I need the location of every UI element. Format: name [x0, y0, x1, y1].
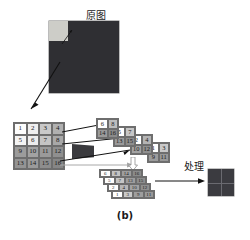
strip-cell-value: 12 — [142, 185, 147, 190]
card-cell: 4 — [142, 135, 153, 145]
grid-cell: 7 — [39, 135, 52, 147]
grid-cell: 14 — [27, 158, 40, 170]
card-cell: 15 — [125, 137, 136, 147]
grid-cell-value: 10 — [29, 148, 36, 155]
strip-cell-value: 5 — [108, 178, 111, 183]
result-divider-horizontal — [208, 183, 234, 184]
card-cell: 16 — [108, 129, 119, 139]
strip-cell: 9 — [133, 191, 144, 198]
strip-cell-value: 14 — [124, 171, 129, 176]
result-image-block — [208, 169, 234, 196]
strip-cell-value: 7 — [119, 178, 122, 183]
card-cell-value: 4 — [145, 137, 148, 144]
card-cell-value: 16 — [110, 130, 117, 137]
card-cell: 6 — [97, 119, 108, 129]
grid-cell: 2 — [27, 123, 40, 135]
card-cell: 14 — [97, 129, 108, 139]
grid-cell-value: 7 — [44, 137, 48, 144]
strip-cell-value: 9 — [137, 192, 140, 197]
strip-cell: 15 — [136, 177, 147, 184]
card-cell: 7 — [125, 127, 136, 137]
grid-cell: 13 — [14, 158, 27, 170]
subsample-card-a: 6 8 14 16 — [96, 118, 119, 139]
strip-cell: 4 — [119, 184, 130, 191]
card-cell-value: 3 — [162, 145, 165, 152]
strip-cell: 13 — [125, 177, 136, 184]
grid-cell: 5 — [14, 135, 27, 147]
strip-cell: 1 — [112, 191, 123, 198]
flat-strip-a: 6 8 14 16 — [99, 169, 143, 178]
card-cell-value: 12 — [144, 146, 151, 153]
strip-cell: 7 — [115, 177, 126, 184]
card-cell-value: 11 — [161, 154, 167, 161]
figure-canvas: 原图 1 2 3 4 5 6 7 8 9 10 11 12 13 14 15 1… — [0, 0, 250, 240]
card-cell-value: 8 — [111, 121, 114, 128]
figure-caption: (b) — [0, 210, 250, 221]
strip-cell: 14 — [121, 170, 132, 177]
grid-cell-value: 9 — [19, 148, 23, 155]
process-label: 处理 — [184, 158, 204, 173]
grid-cell: 1 — [14, 123, 27, 135]
source-pixel-grid: 1 2 3 4 5 6 7 8 9 10 11 12 13 14 15 16 — [13, 122, 65, 170]
strip-cell-value: 16 — [134, 171, 139, 176]
strip-cell-value: 15 — [138, 178, 143, 183]
strip-cell-value: 13 — [128, 178, 133, 183]
strip-cell: 5 — [104, 177, 115, 184]
strip-cell-value: 6 — [104, 171, 107, 176]
grid-cell: 11 — [39, 146, 52, 158]
strip-cell-value: 2 — [112, 185, 115, 190]
strip-cell: 12 — [140, 184, 151, 191]
original-image-label: 原图 — [86, 7, 106, 22]
strip-cell: 11 — [144, 191, 155, 198]
card-cell-value: 15 — [127, 138, 134, 145]
grid-cell-value: 11 — [42, 148, 49, 155]
grid-cell-value: 13 — [17, 160, 24, 167]
strip-cell-value: 4 — [123, 185, 126, 190]
grid-cell-value: 8 — [56, 137, 60, 144]
grid-cell-value: 3 — [44, 125, 48, 132]
strip-cell: 2 — [108, 184, 119, 191]
strip-cell: 16 — [132, 170, 143, 177]
grid-cell-value: 15 — [42, 160, 49, 167]
grid-cell-value: 14 — [29, 160, 36, 167]
grid-cell-value: 2 — [31, 125, 35, 132]
strip-cell-value: 1 — [116, 192, 119, 197]
card-cell-value: 7 — [128, 129, 131, 136]
card-cell-value: 6 — [101, 121, 104, 128]
strip-cell-value: 3 — [127, 192, 130, 197]
arrow-image-to-grid — [20, 60, 80, 120]
grid-cell-value: 5 — [19, 137, 23, 144]
strip-cell: 3 — [123, 191, 134, 198]
strip-cell: 8 — [111, 170, 122, 177]
grid-cell: 3 — [39, 123, 52, 135]
strip-cell-value: 11 — [146, 192, 151, 197]
grid-cell: 10 — [27, 146, 40, 158]
grid-cell-value: 1 — [19, 125, 23, 132]
card-cell: 11 — [159, 153, 170, 163]
grid-cell: 6 — [27, 135, 40, 147]
card-cell: 3 — [159, 143, 170, 153]
strip-cell: 6 — [100, 170, 111, 177]
grid-cell-value: 4 — [56, 125, 60, 132]
grid-cell-value: 6 — [31, 137, 35, 144]
card-cell: 8 — [108, 119, 119, 129]
strip-cell: 10 — [129, 184, 140, 191]
card-cell: 12 — [142, 145, 153, 155]
strip-cell-value: 10 — [132, 185, 137, 190]
grid-cell: 15 — [39, 158, 52, 170]
arrow-process — [155, 176, 207, 186]
card-cell-value: 14 — [99, 130, 106, 137]
patch-pointer-icon — [61, 29, 79, 45]
grid-cell: 9 — [14, 146, 27, 158]
strip-cell-value: 8 — [115, 171, 118, 176]
